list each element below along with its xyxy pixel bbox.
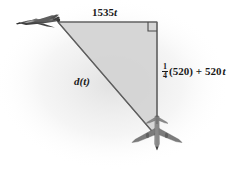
geometry-figure: 1535t d(t) 1 4 (520) + 520t: [0, 0, 240, 175]
fraction-numerator: 1: [162, 63, 168, 71]
horizontal-leg-label: 1535t: [92, 7, 117, 18]
horizontal-leg-coefficient: 1535: [92, 6, 114, 18]
vertical-leg-label: 1 4 (520) + 520t: [162, 63, 226, 81]
vertical-leg-term: 520: [205, 66, 222, 77]
vertical-leg-plus: +: [194, 66, 204, 77]
vertical-leg-variable: t: [223, 66, 226, 77]
hypotenuse-label: d(t): [74, 76, 90, 87]
hypotenuse-paren-close: ): [86, 75, 90, 87]
vertical-leg-paren-term: (520): [169, 66, 193, 77]
fraction-denominator: 4: [162, 71, 168, 80]
quarter-fraction: 1 4: [162, 63, 168, 81]
triangle-diagram-svg: [0, 0, 240, 175]
horizontal-leg-variable: t: [114, 6, 117, 18]
